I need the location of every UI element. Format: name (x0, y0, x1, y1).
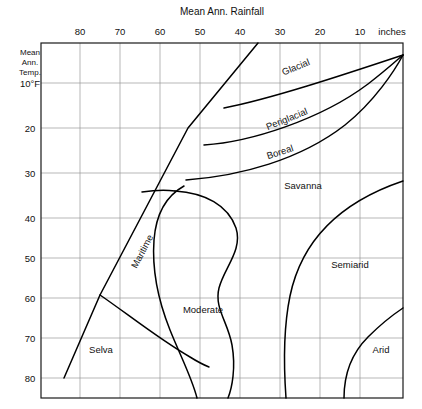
y-tick-label-20: 20 (25, 123, 36, 134)
zone-label-moderate: Moderate (183, 304, 223, 315)
x-tick-label-10: 10 (355, 26, 366, 37)
boundary-moderate-top-connector (142, 190, 175, 192)
y-axis-title-line-3: Temp. (19, 68, 41, 77)
y-tick-label-50: 50 (25, 253, 36, 264)
climate-classification-chart: Mean Ann. Rainfall 80 70 60 50 40 30 20 … (0, 0, 422, 409)
boundary-savanna-semiarid (285, 181, 403, 398)
boundary-savanna-moderate (175, 191, 238, 398)
y-tick-label-60: 60 (25, 293, 36, 304)
x-tick-label-20: 20 (315, 26, 326, 37)
chart-boundaries (64, 43, 403, 398)
y-tick-label-10: 10°F (20, 78, 40, 89)
zone-label-selva: Selva (89, 344, 113, 355)
y-axis-title-line-1: Mean (20, 48, 40, 57)
zone-label-maritime: Maritime (129, 233, 156, 270)
boundary-glacial-periglacial (224, 55, 403, 108)
x-tick-label-40: 40 (235, 26, 246, 37)
y-tick-label-70: 70 (25, 333, 36, 344)
zone-label-arid: Arid (373, 344, 390, 355)
y-tick-label-30: 30 (25, 168, 36, 179)
y-tick-label-40: 40 (25, 213, 36, 224)
chart-zone-labels: Glacial Periglacial Boreal Savanna Semia… (89, 56, 389, 355)
x-tick-label-80: 80 (75, 26, 86, 37)
x-tick-label-60: 60 (155, 26, 166, 37)
x-tick-label-30: 30 (275, 26, 286, 37)
x-axis-unit-label: inches (378, 26, 406, 37)
x-tick-label-70: 70 (115, 26, 126, 37)
x-axis-title: Mean Ann. Rainfall (180, 6, 264, 17)
y-tick-label-80: 80 (25, 373, 36, 384)
zone-label-savanna: Savanna (284, 180, 322, 191)
chart-svg: Mean Ann. Rainfall 80 70 60 50 40 30 20 … (0, 0, 422, 409)
zone-label-glacial: Glacial (280, 56, 311, 77)
x-tick-label-50: 50 (195, 26, 206, 37)
y-axis-title-line-2: Ann. (22, 58, 38, 67)
zone-label-semiarid: Semiarid (331, 259, 369, 270)
